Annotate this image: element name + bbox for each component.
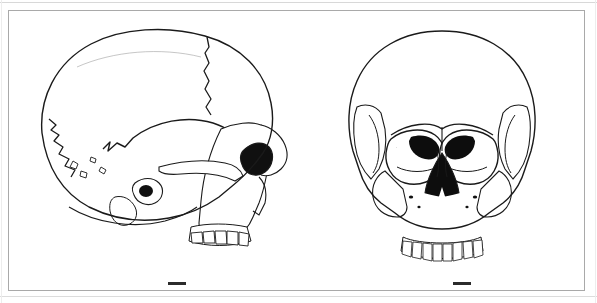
illustration-plate: Lateral view of human skull <box>0 0 597 303</box>
scale-bar-lateral <box>168 282 186 285</box>
figure-panel-frontal: Frontal view of human skull <box>299 11 586 292</box>
scan-edge-top <box>0 2 597 3</box>
scan-edge-right <box>595 0 596 303</box>
scan-edge-left <box>1 0 2 303</box>
figure-panel-lateral: Lateral view of human skull <box>9 11 299 292</box>
lateral-maxillary-dentition <box>189 224 251 246</box>
plate-frame-border: Lateral view of human skull <box>8 10 585 291</box>
scale-bar-frontal <box>453 282 471 285</box>
skull-frontal-illustration <box>299 11 586 292</box>
scan-edge-bottom <box>0 296 597 297</box>
skull-lateral-illustration <box>9 11 299 292</box>
